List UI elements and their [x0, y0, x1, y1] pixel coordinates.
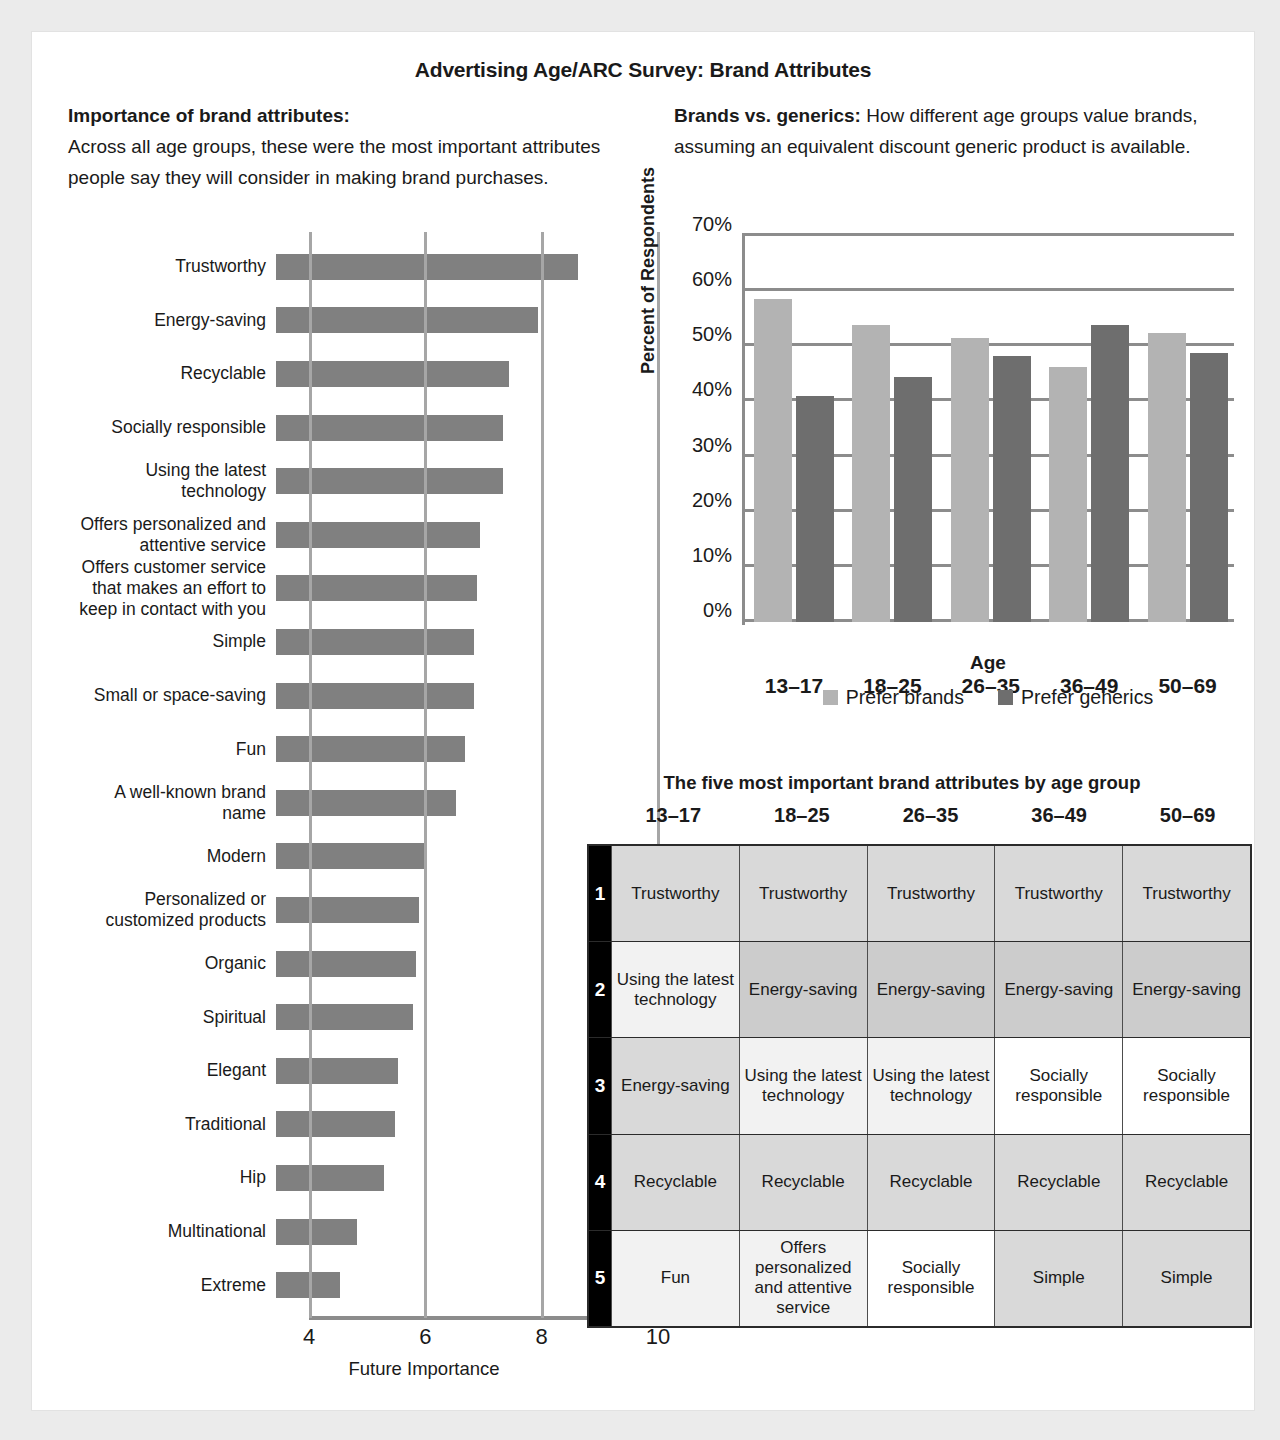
brands-vs-generics-chart: Percent of Respondents 0%10%20%30%40%50%… — [644, 190, 1234, 690]
y-tick-label: 60% — [692, 268, 732, 291]
table-cell: Energy-saving — [739, 942, 867, 1037]
bar-track — [276, 508, 668, 562]
legend-item: Prefer generics — [998, 686, 1153, 709]
table-cell: Fun — [611, 1231, 739, 1326]
bar-fill — [276, 843, 427, 869]
y-tick-label: 70% — [692, 213, 732, 236]
bar-track — [276, 615, 668, 669]
table-rank-cell: 5 — [589, 1231, 611, 1326]
table-cell: Recyclable — [867, 1135, 995, 1230]
bar-fill — [276, 1111, 395, 1137]
bar-fill — [276, 1272, 340, 1298]
bar-category-label: A well-known brand name — [68, 782, 276, 824]
bar-category-label: Offers personalized andattentive service — [68, 514, 276, 556]
bar-row: Small or space-saving — [68, 669, 668, 723]
bar-row: Socially responsible — [68, 401, 668, 455]
figure-card: Advertising Age/ARC Survey: Brand Attrib… — [32, 32, 1254, 1410]
bar-category-label: Elegant — [68, 1060, 276, 1081]
table-cell: Recyclable — [1122, 1135, 1250, 1230]
chart-legend: Prefer brandsPrefer generics — [742, 686, 1234, 709]
bar-row: Using the latesttechnology — [68, 454, 668, 508]
table-cell: Socially responsible — [994, 1038, 1122, 1133]
table-row: 5FunOffers personalized and attentive se… — [589, 1231, 1250, 1326]
column-bar-prefer-generics — [993, 356, 1031, 622]
bar-category-label: Small or space-saving — [68, 685, 276, 706]
table-column-headers: 13–1718–2526–3536–4950–69 — [587, 804, 1252, 838]
bar-track — [276, 722, 668, 776]
table-cell: Using the latest technology — [611, 942, 739, 1037]
bar-row: Fun — [68, 722, 668, 776]
x-tick-label: 6 — [419, 1324, 431, 1350]
column-group — [752, 236, 850, 622]
bar-track — [276, 669, 668, 723]
column-group — [1146, 236, 1244, 622]
bar-track — [276, 454, 668, 508]
table-column-header: 36–49 — [995, 804, 1124, 838]
right-intro-heading: Brands vs. generics: — [674, 105, 861, 126]
bar-category-label: Multinational — [68, 1221, 276, 1242]
bar-track — [276, 240, 668, 294]
bar-category-label: Using the latesttechnology — [68, 460, 276, 502]
bar-row: Energy-saving — [68, 294, 668, 348]
table-rank-header-spacer — [587, 804, 609, 838]
table-cell: Socially responsible — [867, 1231, 995, 1326]
bar-category-label: Traditional — [68, 1114, 276, 1135]
bar-row: Elegant — [68, 1044, 668, 1098]
bar-category-label: Socially responsible — [68, 417, 276, 438]
table-column-header: 18–25 — [738, 804, 867, 838]
table-title: The five most important brand attributes… — [552, 772, 1252, 794]
table-cell: Trustworthy — [867, 846, 995, 941]
bar-category-label: Extreme — [68, 1275, 276, 1296]
bar-category-label: Recyclable — [68, 363, 276, 384]
table-rank-cell: 1 — [589, 846, 611, 941]
column-bar-prefer-generics — [1091, 325, 1129, 622]
bar-row: Offers customer servicethat makes an eff… — [68, 562, 668, 616]
bar-category-label: Spiritual — [68, 1007, 276, 1028]
legend-swatch-icon — [998, 690, 1013, 705]
bar-category-label: Offers customer servicethat makes an eff… — [68, 557, 276, 620]
bar-row: Hip — [68, 1151, 668, 1205]
column-bar-prefer-brands — [1148, 333, 1186, 623]
legend-label: Prefer generics — [1021, 686, 1153, 709]
attributes-table: 1TrustworthyTrustworthyTrustworthyTrustw… — [587, 844, 1252, 1328]
column-bar-prefer-generics — [894, 377, 932, 622]
legend-swatch-icon — [823, 690, 838, 705]
table-cell: Recyclable — [994, 1135, 1122, 1230]
table-cell: Trustworthy — [739, 846, 867, 941]
bar-row: Traditional — [68, 1098, 668, 1152]
x-tick-label: 8 — [536, 1324, 548, 1350]
bar-row: Trustworthy — [68, 240, 668, 294]
table-row: 1TrustworthyTrustworthyTrustworthyTrustw… — [589, 846, 1250, 942]
table-cell: Trustworthy — [1122, 846, 1250, 941]
bar-row: Recyclable — [68, 347, 668, 401]
bar-category-label: Simple — [68, 631, 276, 652]
column-bar-prefer-generics — [796, 396, 834, 622]
bar-row: Extreme — [68, 1258, 668, 1312]
left-intro-heading: Importance of brand attributes: — [68, 100, 628, 131]
bar-fill — [276, 522, 480, 548]
column-group — [949, 236, 1047, 622]
bar-row: Modern — [68, 830, 668, 884]
left-intro-body: Across all age groups, these were the mo… — [68, 136, 600, 188]
column-bar-prefer-brands — [951, 338, 989, 622]
table-cell: Using the latest technology — [867, 1038, 995, 1133]
bar-fill — [276, 575, 477, 601]
column-bar-prefer-brands — [754, 299, 792, 622]
y-tick-label: 30% — [692, 433, 732, 456]
y-axis-spine — [309, 232, 312, 1318]
bar-row: Offers personalized andattentive service — [68, 508, 668, 562]
table-cell: Energy-saving — [994, 942, 1122, 1037]
y-axis-title: Percent of Respondents — [638, 167, 659, 374]
table-cell: Offers personalized and attentive servic… — [739, 1231, 867, 1326]
bar-track — [276, 347, 668, 401]
table-rank-cell: 3 — [589, 1038, 611, 1133]
column-bar-prefer-generics — [1190, 353, 1228, 622]
bar-category-label: Modern — [68, 846, 276, 867]
bar-fill — [276, 307, 538, 333]
table-row: 4RecyclableRecyclableRecyclableRecyclabl… — [589, 1135, 1250, 1231]
column-group — [850, 236, 948, 622]
y-tick-label: 10% — [692, 543, 732, 566]
legend-item: Prefer brands — [823, 686, 964, 709]
bar-fill — [276, 951, 416, 977]
bar-fill — [276, 1004, 413, 1030]
